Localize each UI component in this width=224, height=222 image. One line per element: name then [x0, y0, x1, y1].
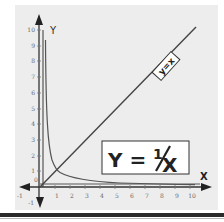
y-arrow-up-icon [35, 14, 43, 25]
svg-text:7: 7 [31, 73, 35, 80]
x-tick-labels: -1 1 2 3 4 5 6 7 8 9 10 [17, 192, 196, 199]
svg-text:2: 2 [31, 152, 35, 159]
x-arrow-right-icon [201, 183, 212, 191]
x-arrow-left-icon [19, 183, 30, 191]
svg-text:4: 4 [100, 192, 104, 199]
svg-text:-1: -1 [28, 199, 34, 206]
svg-text:3: 3 [31, 136, 35, 143]
svg-text:6: 6 [130, 192, 134, 199]
formula-box: Y = 1 X [102, 141, 189, 177]
svg-text:9: 9 [31, 42, 35, 49]
graph: -1 1 2 3 4 5 6 7 8 9 10 -1 1 2 3 4 5 6 7… [0, 0, 224, 222]
svg-text:4: 4 [31, 120, 35, 127]
svg-text:5: 5 [31, 105, 35, 112]
svg-text:7: 7 [145, 192, 149, 199]
y-axis-title: Y [49, 25, 57, 36]
svg-text:10: 10 [27, 26, 35, 33]
svg-text:3: 3 [85, 192, 89, 199]
y-equals-x-label: y=x [152, 52, 180, 81]
x-axis-title: X [200, 171, 208, 182]
svg-text:2: 2 [70, 192, 74, 199]
svg-text:6: 6 [31, 89, 35, 96]
svg-text:1: 1 [31, 167, 35, 174]
svg-text:9: 9 [175, 192, 179, 199]
origin-label: 0 [34, 176, 38, 183]
formula-denominator: X [162, 153, 178, 177]
formula-lhs: Y = [107, 148, 146, 172]
svg-text:5: 5 [115, 192, 119, 199]
svg-text:-1: -1 [17, 192, 23, 199]
svg-text:8: 8 [160, 192, 164, 199]
svg-text:8: 8 [31, 57, 35, 64]
y-arrow-down-icon [36, 197, 44, 208]
svg-text:1: 1 [55, 192, 59, 199]
svg-text:10: 10 [188, 192, 196, 199]
